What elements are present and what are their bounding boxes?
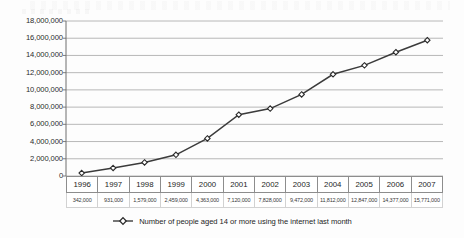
data-point-marker <box>362 63 367 68</box>
year-cell: 1999 <box>160 177 191 193</box>
value-cell: 1,579,000 <box>129 193 160 208</box>
value-cell: 4,363,000 <box>192 193 223 208</box>
value-data-row: 342,000931,0001,579,0002,459,0004,363,00… <box>67 193 443 208</box>
value-cell: 7,828,000 <box>254 193 285 208</box>
year-cell: 1998 <box>129 177 160 193</box>
year-cell: 2002 <box>254 177 285 193</box>
year-cell: 2006 <box>380 177 411 193</box>
data-point-marker <box>142 160 147 165</box>
year-cell: 1996 <box>67 177 98 193</box>
value-cell: 342,000 <box>67 193 98 208</box>
value-cell: 9,472,000 <box>286 193 317 208</box>
value-cell: 2,459,000 <box>160 193 191 208</box>
value-cell: 12,847,000 <box>348 193 379 208</box>
gridlines <box>63 21 443 176</box>
data-point-marker <box>110 165 115 170</box>
value-cell: 7,120,000 <box>223 193 254 208</box>
value-cell: 15,771,000 <box>411 193 442 208</box>
data-table: 1996199719981999200020012002200320042005… <box>66 176 443 208</box>
year-cell: 2001 <box>223 177 254 193</box>
chart-figure: 02,000,0004,000,0006,000,0008,000,00010,… <box>0 0 464 238</box>
value-cell: 14,377,000 <box>380 193 411 208</box>
value-cell: 11,812,000 <box>317 193 348 208</box>
data-point-marker <box>79 170 84 175</box>
year-cell: 2007 <box>411 177 442 193</box>
diamond-line-marker-icon <box>112 216 134 226</box>
year-cell: 2000 <box>192 177 223 193</box>
data-point-marker <box>393 49 398 54</box>
year-cell: 2004 <box>317 177 348 193</box>
year-header-row: 1996199719981999200020012002200320042005… <box>67 177 443 193</box>
legend-label: Number of people aged 14 or more using t… <box>139 217 352 226</box>
data-point-markers <box>79 37 430 175</box>
year-cell: 2005 <box>348 177 379 193</box>
year-cell: 1997 <box>98 177 129 193</box>
chart-legend: Number of people aged 14 or more using t… <box>0 216 464 226</box>
value-cell: 931,000 <box>98 193 129 208</box>
year-cell: 2003 <box>286 177 317 193</box>
data-point-marker <box>173 152 178 157</box>
data-series-line <box>82 40 428 173</box>
